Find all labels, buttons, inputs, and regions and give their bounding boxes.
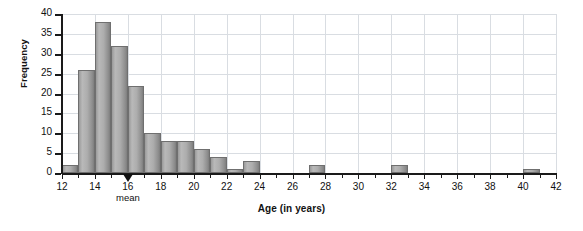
y-tick	[55, 74, 61, 76]
x-tick	[457, 173, 458, 179]
histogram-bar	[210, 157, 226, 173]
x-tick-label: 32	[376, 181, 406, 192]
x-tick-label: 12	[47, 181, 77, 192]
x-tick	[293, 173, 294, 179]
histogram-bar	[177, 141, 193, 173]
x-tick	[194, 173, 195, 179]
gridline-horizontal	[62, 74, 556, 75]
histogram-figure: Frequency Age (in years) 121416182022242…	[0, 0, 583, 231]
x-tick	[358, 173, 359, 179]
y-tick-label: 25	[24, 67, 52, 78]
mean-triangle-icon	[123, 174, 133, 182]
x-tick	[309, 173, 310, 178]
x-tick	[78, 173, 79, 178]
x-tick	[243, 173, 244, 178]
x-tick	[325, 173, 326, 179]
gridline-vertical	[556, 14, 557, 173]
histogram-bar	[243, 161, 259, 173]
x-tick	[260, 173, 261, 179]
x-tick-label: 18	[146, 181, 176, 192]
mean-label: mean	[108, 192, 148, 203]
x-tick	[95, 173, 96, 179]
x-tick-label: 28	[310, 181, 340, 192]
x-tick	[111, 173, 112, 178]
histogram-bar	[62, 165, 78, 173]
x-axis-title: Age (in years)	[0, 203, 583, 214]
x-tick-label: 30	[343, 181, 373, 192]
x-tick-label: 38	[475, 181, 505, 192]
y-tick	[55, 34, 61, 36]
x-tick-label: 34	[409, 181, 439, 192]
x-tick	[424, 173, 425, 179]
x-tick	[507, 173, 508, 178]
x-tick	[144, 173, 145, 178]
histogram-bar	[161, 141, 177, 173]
y-tick	[55, 113, 61, 115]
gridline-horizontal	[62, 54, 556, 55]
y-tick-label: 40	[24, 7, 52, 18]
x-tick	[523, 173, 524, 179]
y-tick	[55, 14, 61, 16]
x-tick-label: 42	[541, 181, 571, 192]
x-tick	[375, 173, 376, 178]
y-tick-label: 15	[24, 106, 52, 117]
histogram-bar	[391, 165, 407, 173]
histogram-bar	[194, 149, 210, 173]
gridline-horizontal	[62, 14, 556, 15]
y-tick	[55, 94, 61, 96]
x-tick	[441, 173, 442, 178]
x-tick	[474, 173, 475, 178]
x-tick	[62, 173, 63, 179]
x-tick	[210, 173, 211, 178]
y-tick-label: 10	[24, 126, 52, 137]
histogram-bar	[111, 46, 127, 173]
y-axis-line	[61, 14, 63, 174]
histogram-bar	[128, 86, 144, 173]
x-tick	[342, 173, 343, 178]
x-tick-label: 16	[113, 181, 143, 192]
x-tick	[556, 173, 557, 179]
x-tick-label: 24	[245, 181, 275, 192]
y-tick	[55, 173, 61, 175]
x-tick	[408, 173, 409, 178]
x-tick	[276, 173, 277, 178]
x-tick	[540, 173, 541, 178]
y-tick	[55, 133, 61, 135]
y-tick-label: 20	[24, 87, 52, 98]
x-tick-label: 22	[212, 181, 242, 192]
histogram-bar	[78, 70, 94, 173]
y-tick-label: 0	[24, 166, 52, 177]
x-tick-label: 14	[80, 181, 110, 192]
x-tick	[177, 173, 178, 178]
x-tick	[227, 173, 228, 179]
x-tick-label: 20	[179, 181, 209, 192]
histogram-bar	[95, 22, 111, 173]
y-tick	[55, 54, 61, 56]
plot-area	[62, 14, 556, 173]
x-tick-label: 26	[278, 181, 308, 192]
y-tick	[55, 153, 61, 155]
histogram-bar	[309, 165, 325, 173]
y-tick-label: 35	[24, 27, 52, 38]
x-tick-label: 40	[508, 181, 538, 192]
gridline-horizontal	[62, 34, 556, 35]
x-tick	[391, 173, 392, 179]
x-tick-label: 36	[442, 181, 472, 192]
y-tick-label: 30	[24, 47, 52, 58]
x-tick	[490, 173, 491, 179]
x-tick	[161, 173, 162, 179]
histogram-bar	[144, 133, 160, 173]
y-tick-label: 5	[24, 146, 52, 157]
